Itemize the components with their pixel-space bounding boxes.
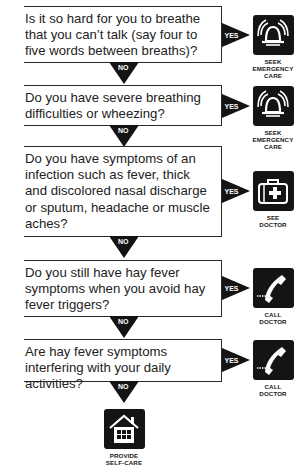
house-icon (104, 409, 145, 449)
no-arrow: NO (109, 62, 139, 84)
bell-icon (253, 86, 294, 126)
svg-text:NO: NO (118, 127, 129, 134)
svg-text:YES: YES (225, 285, 239, 292)
yes-label: YES (225, 32, 239, 39)
outcome-provide-self-care: PROVIDE SELF-CARE (96, 409, 152, 466)
outcome-label: CALL DOCTOR (245, 311, 301, 325)
outcome-seek-emergency-care: SEEK EMERGENCY CARE (245, 86, 301, 150)
svg-text:NO: NO (118, 383, 129, 390)
no-arrow: NO (109, 236, 139, 258)
outcome-label: SEEK EMERGENCY CARE (245, 129, 301, 150)
no-label: NO (118, 64, 129, 71)
svg-text:YES: YES (225, 357, 239, 364)
phone-icon (253, 340, 294, 380)
no-arrow: NO (109, 381, 139, 403)
svg-text:NO: NO (118, 238, 129, 245)
question-box-2: Do you have severe breathing difficultie… (24, 85, 222, 126)
svg-text:YES: YES (225, 103, 239, 110)
outcome-label: PROVIDE SELF-CARE (96, 452, 152, 466)
no-arrow: NO (109, 125, 139, 147)
svg-text:NO: NO (118, 318, 129, 325)
question-text: Do you have severe breathing difficultie… (25, 90, 201, 121)
outcome-label: SEEK EMERGENCY CARE (245, 58, 301, 79)
outcome-seek-emergency-care: SEEK EMERGENCY CARE (245, 15, 301, 79)
outcome-label: SEE DOCTOR (245, 214, 301, 228)
question-text: Is it so hard for you to breathe that yo… (25, 11, 200, 58)
question-box-4: Do you still have hay fever symptoms whe… (24, 260, 222, 317)
question-box-3: Do you have symptoms of an infection suc… (24, 146, 222, 237)
outcome-label: CALL DOCTOR (245, 383, 301, 397)
question-box-5: Are hay fever symptoms interfering with … (24, 339, 222, 382)
outcome-see-doctor: SEE DOCTOR (245, 171, 301, 228)
question-text: Do you have symptoms of an infection suc… (25, 151, 210, 231)
outcome-call-doctor: CALL DOCTOR (245, 340, 301, 397)
question-box-1: Is it so hard for you to breathe that yo… (24, 6, 222, 63)
phone-icon (253, 268, 294, 308)
question-text: Are hay fever symptoms interfering with … (25, 344, 171, 391)
svg-text:YES: YES (225, 188, 239, 195)
no-arrow: NO (109, 316, 139, 338)
bell-icon (253, 15, 294, 55)
question-text: Do you still have hay fever symptoms whe… (25, 265, 205, 312)
outcome-call-doctor: CALL DOCTOR (245, 268, 301, 325)
medical-bag-icon (253, 171, 294, 211)
